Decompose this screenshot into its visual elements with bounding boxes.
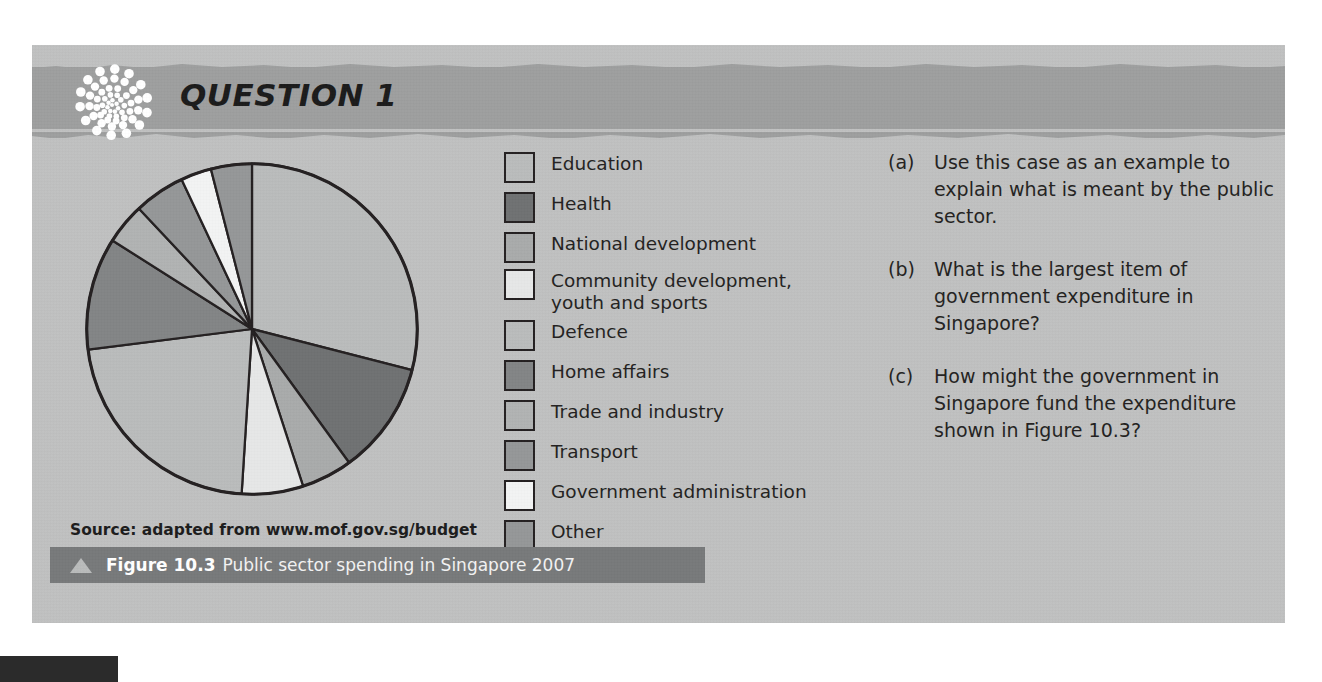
triangle-marker-icon <box>70 558 92 573</box>
legend-item-label: Health <box>551 191 612 215</box>
legend-item-label: National development <box>551 231 756 255</box>
legend-swatch <box>504 360 535 391</box>
figure-title: Public sector spending in Singapore 2007 <box>223 555 576 575</box>
legend-item-label: Defence <box>551 319 628 343</box>
question-item: (c)How might the government in Singapore… <box>888 363 1288 444</box>
chart-column: Source: adapted from www.mof.gov.sg/budg… <box>50 153 470 503</box>
legend-item: Defence <box>504 319 864 351</box>
legend-item-label: Transport <box>551 439 638 463</box>
question-marker: (c) <box>888 363 934 390</box>
legend-item: Health <box>504 191 864 223</box>
question-text: How might the government in Singapore fu… <box>934 363 1288 444</box>
legend-swatch <box>504 269 535 300</box>
panel-content: Source: adapted from www.mof.gov.sg/budg… <box>32 153 1285 553</box>
band-tear-top-edge <box>32 58 1285 68</box>
legend-item-label: Government administration <box>551 479 807 503</box>
page-title: QUESTION 1 <box>180 77 397 113</box>
figure-number: Figure 10.3 <box>106 555 216 575</box>
pie-chart <box>78 155 426 503</box>
legend-item: Education <box>504 151 864 183</box>
tear-top-svg <box>32 62 1285 68</box>
legend-item-label: Home affairs <box>551 359 669 383</box>
legend-swatch <box>504 232 535 263</box>
dot-spiral-svg <box>64 57 160 153</box>
legend-item: Government administration <box>504 479 864 511</box>
tear-bottom-svg <box>32 132 1285 138</box>
question-marker: (b) <box>888 256 934 283</box>
question-panel: QUESTION 1 Source: adapted from www.mof.… <box>32 45 1285 623</box>
legend-item: Trade and industry <box>504 399 864 431</box>
question-item: (a)Use this case as an example to explai… <box>888 149 1288 230</box>
legend-item-label: Trade and industry <box>551 399 724 423</box>
legend-item: Transport <box>504 439 864 471</box>
dot-spiral-logo-icon <box>64 57 160 153</box>
legend-item-label: Other <box>551 519 604 543</box>
pie-slice <box>88 329 252 494</box>
legend-swatch <box>504 480 535 511</box>
pie-chart-svg <box>78 155 426 503</box>
legend-swatch <box>504 320 535 351</box>
questions-list: (a)Use this case as an example to explai… <box>888 149 1288 470</box>
band-tear-bottom-edge <box>32 128 1285 138</box>
legend-swatch <box>504 440 535 471</box>
question-text: What is the largest item of government e… <box>934 256 1288 337</box>
legend-item-label: Community development,youth and sports <box>551 268 792 314</box>
legend-swatch <box>504 192 535 223</box>
question-text: Use this case as an example to explain w… <box>934 149 1288 230</box>
legend-item: National development <box>504 231 864 263</box>
chart-legend: EducationHealthNational developmentCommu… <box>504 151 864 559</box>
legend-item: Home affairs <box>504 359 864 391</box>
source-note: Source: adapted from www.mof.gov.sg/budg… <box>70 521 477 539</box>
page-root: QUESTION 1 Source: adapted from www.mof.… <box>0 0 1322 682</box>
figure-caption-bar: Figure 10.3 Public sector spending in Si… <box>50 547 705 583</box>
legend-item-label: Education <box>551 151 643 175</box>
legend-swatch <box>504 152 535 183</box>
question-marker: (a) <box>888 149 934 176</box>
legend-item: Community development,youth and sports <box>504 268 864 314</box>
question-item: (b)What is the largest item of governmen… <box>888 256 1288 337</box>
legend-swatch <box>504 400 535 431</box>
page-number-tab <box>0 656 118 682</box>
